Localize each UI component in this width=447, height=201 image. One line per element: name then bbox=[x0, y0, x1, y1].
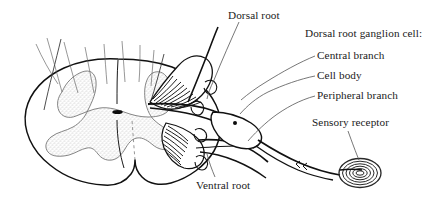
label-ventral-root: Ventral root bbox=[196, 180, 250, 191]
leader-cell-body bbox=[240, 76, 315, 114]
leader-ventral-root bbox=[207, 154, 215, 177]
leader-dorsal-root bbox=[207, 22, 239, 99]
label-dorsal-root: Dorsal root bbox=[228, 10, 280, 21]
central-canal bbox=[112, 110, 122, 114]
label-dorsal-root-ganglion-cell-title: Dorsal root ganglion cell: bbox=[305, 28, 422, 39]
ganglion-cell-body bbox=[233, 121, 237, 125]
label-sensory-receptor: Sensory receptor bbox=[312, 117, 389, 128]
leader-central-branch bbox=[241, 56, 315, 100]
lamellated-sensory-corpuscle bbox=[339, 159, 381, 188]
label-cell-body: Cell body bbox=[317, 70, 362, 81]
label-central-branch: Central branch bbox=[317, 50, 385, 61]
leader-sensory-receptor bbox=[348, 131, 359, 160]
dorsal-root-ganglion bbox=[211, 112, 261, 149]
peripheral-nerve-fiber bbox=[256, 140, 340, 180]
label-peripheral-branch: Peripheral branch bbox=[317, 90, 398, 101]
